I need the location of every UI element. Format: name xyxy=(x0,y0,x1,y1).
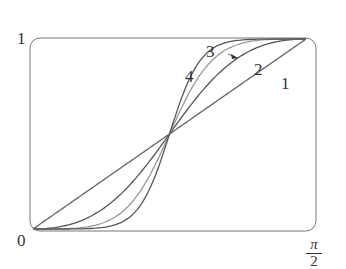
curve-label-4: 4 xyxy=(185,67,194,87)
y-tick-1: 1 xyxy=(17,29,26,49)
curve-label-3: 3 xyxy=(206,42,215,62)
x-tick-pi-over-2: π2 xyxy=(306,237,322,269)
curve-label-2: 2 xyxy=(254,60,263,80)
x-tick-denominator: 2 xyxy=(310,253,318,269)
plot-area xyxy=(0,0,346,269)
origin-label: 0 xyxy=(17,231,26,251)
plot-frame xyxy=(30,38,316,231)
curve-label-1: 1 xyxy=(281,74,290,94)
x-tick-numerator: π xyxy=(306,237,322,254)
